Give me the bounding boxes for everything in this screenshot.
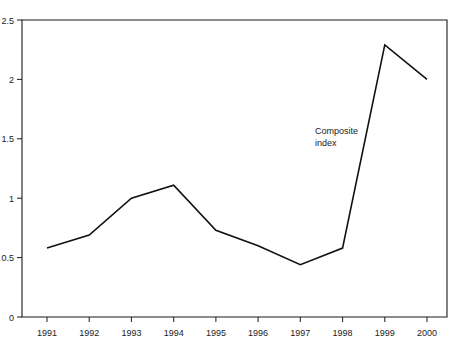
- y-tick-label-1: 1: [9, 194, 14, 204]
- annotation-line-1: Composite: [315, 126, 358, 136]
- x-tick-label-1994: 1994: [164, 328, 184, 338]
- x-tick-label-1996: 1996: [248, 328, 268, 338]
- annotation-line-2: index: [315, 138, 337, 148]
- chart-canvas: 2.5 2 1.5 1 0.5 0 1991 1992 1993 1994 19…: [0, 0, 463, 352]
- x-tick-label-1999: 1999: [375, 328, 395, 338]
- x-tick-label-1998: 1998: [333, 328, 353, 338]
- line-chart-figure: 2.5 2 1.5 1 0.5 0 1991 1992 1993 1994 19…: [0, 0, 463, 352]
- x-tick-label-1991: 1991: [37, 328, 57, 338]
- x-tick-label-1992: 1992: [79, 328, 99, 338]
- y-tick-label-1-5: 1.5: [1, 134, 14, 144]
- x-tick-label-1997: 1997: [290, 328, 310, 338]
- x-tick-label-2000: 2000: [417, 328, 437, 338]
- x-tick-label-1993: 1993: [121, 328, 141, 338]
- y-tick-label-2: 2: [9, 75, 14, 85]
- x-tick-label-1995: 1995: [206, 328, 226, 338]
- y-tick-label-0: 0: [9, 313, 14, 323]
- y-tick-label-2-5: 2.5: [1, 16, 14, 26]
- y-tick-label-0-5: 0.5: [1, 253, 14, 263]
